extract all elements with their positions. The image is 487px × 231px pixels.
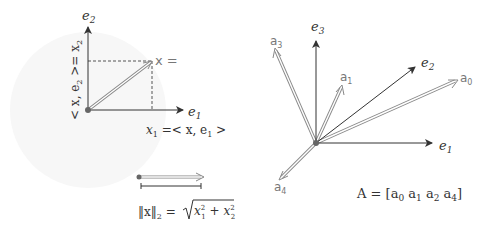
- projection-x2-label: < x, e2 >= x2: [68, 40, 84, 120]
- vector-x-label: x =: [155, 53, 178, 68]
- origin-dot-right: [313, 140, 319, 146]
- svg-text:x21 + x22: x21 + x22: [194, 204, 235, 221]
- diagram-canvas: e2 e1 x = x1 =< x, e1 > < x, e2 >= x2 ‖x…: [0, 0, 487, 231]
- svg-text:‖x‖2 =: ‖x‖2 =: [138, 205, 176, 221]
- matrix-label: A = [a0 a1 a2 a4]: [356, 186, 462, 203]
- e3-label: e3: [311, 19, 325, 36]
- vector-a0: [316, 80, 458, 143]
- norm-formula: ‖x‖2 = x21 + x22: [138, 200, 235, 221]
- e1-label-right: e1: [439, 138, 452, 155]
- origin-dot: [85, 107, 91, 113]
- norm-illustration: [137, 173, 205, 189]
- vector-a1: [316, 85, 344, 143]
- e1-label: e1: [188, 104, 201, 121]
- a3-label: a3: [270, 34, 282, 50]
- a4-label: a4: [274, 180, 286, 196]
- vector-a4: [279, 143, 316, 180]
- vector-a3: [273, 48, 316, 143]
- e2-label: e2: [82, 8, 96, 25]
- left-panel: e2 e1 x = x1 =< x, e1 > < x, e2 >= x2 ‖x…: [10, 8, 235, 221]
- a0-label: a0: [460, 71, 472, 87]
- right-panel: e3 e2 e1 a3 a1 a0 a4 A = [a0 a1 a2 a4]: [270, 19, 472, 203]
- a1-label: a1: [340, 70, 352, 86]
- projection-x1-label: x1 =< x, e1 >: [146, 123, 226, 139]
- e2-label-right: e2: [421, 55, 435, 72]
